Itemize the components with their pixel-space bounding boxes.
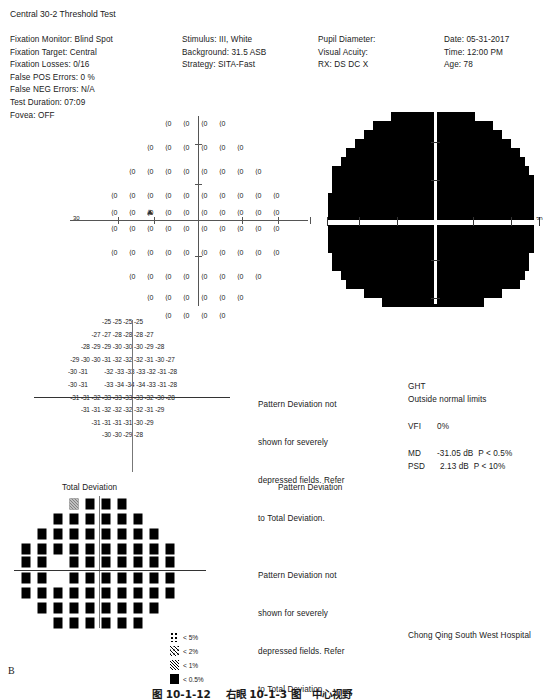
axis-tick <box>195 184 202 185</box>
threshold-value: ⟨0 <box>147 144 153 152</box>
threshold-value: ⟨0 <box>147 249 153 257</box>
deviation-symbol <box>166 573 175 584</box>
param-value: III, White <box>217 35 253 44</box>
deviation-symbol <box>118 514 127 525</box>
param-label: Test Duration: <box>10 98 62 107</box>
threshold-value: ⟨0 <box>201 144 207 152</box>
deviation-symbol <box>134 529 143 540</box>
deviation-symbol <box>70 557 79 568</box>
threshold-value: ⟨0 <box>255 273 261 281</box>
threshold-value: ⟨0 <box>165 192 171 200</box>
deviation-symbol <box>22 573 31 584</box>
threshold-value: ⟨0 <box>183 294 189 302</box>
grid-horizontal-axis <box>70 220 308 221</box>
psd-label: PSD <box>408 461 425 474</box>
legend-row: < 5% <box>170 630 204 644</box>
param-label: Fixation Losses: <box>10 60 71 69</box>
deviation-symbol <box>150 544 159 555</box>
legend-label: < 2% <box>183 648 198 655</box>
deviation-symbol <box>70 573 79 584</box>
threshold-value: ⟨0 <box>183 273 189 281</box>
threshold-value: ⟨0 <box>273 209 279 217</box>
deviation-symbol <box>86 529 95 540</box>
legend-row: < 2% <box>170 644 204 658</box>
threshold-value: ⟨0 <box>237 249 243 257</box>
axis-tick <box>154 217 155 224</box>
threshold-value: ⟨0 <box>255 225 261 233</box>
threshold-value: ⟨0 <box>183 225 189 233</box>
legend-symbol-p1-icon <box>170 660 179 670</box>
deviation-symbol <box>70 499 79 510</box>
deviation-symbol <box>102 603 111 614</box>
deviation-symbol <box>150 588 159 599</box>
vfi-label: VFI <box>408 421 421 434</box>
threshold-value: ⟨0 <box>111 225 117 233</box>
param-label: Fovea: <box>10 111 36 120</box>
threshold-value: ⟨0 <box>183 168 189 176</box>
deviation-symbol <box>86 557 95 568</box>
threshold-value: ⟨0 <box>219 209 225 217</box>
param-label: Strategy: <box>182 60 216 69</box>
param-row: Date: 05-31-2017 <box>444 34 509 47</box>
blind-spot-marker <box>147 210 153 215</box>
map-axis-tick <box>473 217 474 226</box>
axis-tick <box>242 217 243 224</box>
threshold-value: ⟨0 <box>219 294 225 302</box>
param-row: RX: DS DC X <box>318 59 375 72</box>
figure-caption: 图 10-1-12 右眼 10-1-3 图 中心视野 <box>152 686 352 700</box>
param-label: Date: <box>444 35 464 44</box>
deviation-number-row: -29 -30 -30 -31 -32 -32 -32 -31 -30 -27 <box>20 356 225 369</box>
map-axis-tick <box>431 180 440 181</box>
param-value: 78 <box>461 60 473 69</box>
test-parameters-column-3: Pupil Diameter:Visual Acuity:RX: DS DC X <box>318 34 375 72</box>
deviation-symbol <box>86 514 95 525</box>
map-axis-tick <box>359 217 360 226</box>
param-row: Pupil Diameter: <box>318 34 375 47</box>
deviation-symbol <box>70 544 79 555</box>
legend-label: < 0.5% <box>183 676 204 683</box>
pd-note2-line-1: Pattern Deviation not <box>258 570 345 583</box>
threshold-value: ⟨0 <box>165 168 171 176</box>
deviation-number-row: -31 -31 -31 -31 -30 -29 <box>20 419 225 432</box>
deviation-symbol <box>118 557 127 568</box>
test-parameters-column-2: Stimulus: III, WhiteBackground: 31.5 ASB… <box>182 34 266 72</box>
pd-note2-line-2: shown for severely <box>258 608 345 621</box>
deviation-symbol <box>134 514 143 525</box>
axis-tick <box>278 217 279 224</box>
threshold-value: ⟨0 <box>273 249 279 257</box>
threshold-value: ⟨0 <box>165 225 171 233</box>
total-deviation-title: Total Deviation <box>62 482 117 495</box>
hospital-name: Chong Qing South West Hospital <box>408 630 531 643</box>
map-horizontal-axis <box>316 220 547 223</box>
pd-note2-line-3: depressed fields. Refer <box>258 646 345 659</box>
threshold-value: ⟨0 <box>111 192 117 200</box>
threshold-value: ⟨0 <box>183 249 189 257</box>
threshold-value: ⟨0 <box>129 192 135 200</box>
param-label: RX: <box>318 60 332 69</box>
legend-label: < 1% <box>183 662 198 669</box>
threshold-value: ⟨0 <box>255 192 261 200</box>
threshold-value: ⟨0 <box>165 144 171 152</box>
pd-note-line-4: to Total Deviation. <box>258 513 345 526</box>
deviation-symbol <box>22 544 31 555</box>
deviation-symbol <box>54 603 63 614</box>
threshold-value: ⟨0 <box>219 225 225 233</box>
deviation-number-row: -27 -27 -28 -28 -28 -27 <box>20 331 225 344</box>
param-value: N/A <box>79 85 95 94</box>
deviation-symbol <box>102 499 111 510</box>
threshold-value: ⟨0 <box>129 209 135 217</box>
deviation-symbol <box>38 544 47 555</box>
map-axis-tick <box>397 217 398 226</box>
map-axis-tick <box>431 260 440 261</box>
deviation-symbol <box>54 514 63 525</box>
param-row: False POS Errors: 0 % <box>10 72 113 85</box>
deviation-symbol <box>86 573 95 584</box>
deviation-symbol <box>102 529 111 540</box>
legend-row: < 1% <box>170 658 204 672</box>
threshold-value: ⟨0 <box>129 225 135 233</box>
deviation-symbol <box>102 573 111 584</box>
param-row: Visual Acuity: <box>318 47 375 60</box>
threshold-value: ⟨0 <box>165 209 171 217</box>
param-label: Visual Acuity: <box>318 48 368 57</box>
threshold-value: ⟨0 <box>219 144 225 152</box>
